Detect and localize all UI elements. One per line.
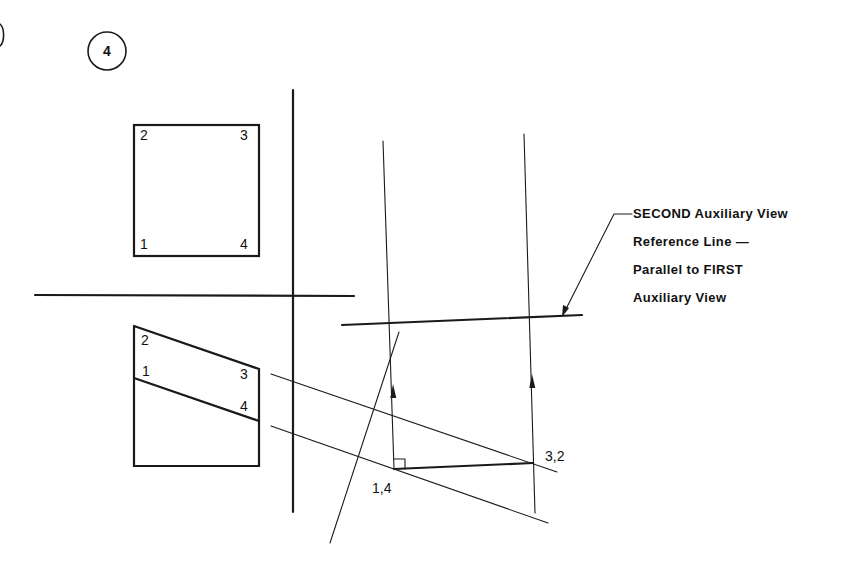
projection-line-upper xyxy=(271,374,557,472)
first-auxiliary-reference-line xyxy=(330,332,399,543)
annotation-line-4: Auxiliary View xyxy=(633,289,788,313)
annotation-line-1: SECOND Auxiliary View xyxy=(633,205,788,233)
top-view-label-4: 4 xyxy=(240,237,248,251)
auxiliary-edge-line xyxy=(394,463,533,469)
arrowhead-right-icon xyxy=(529,374,535,388)
front-view-label-3: 3 xyxy=(240,367,248,381)
annotation-note: SECOND Auxiliary View Reference Line — P… xyxy=(633,205,788,313)
auxiliary-label-3-2: 3,2 xyxy=(545,449,564,463)
top-view-label-3: 3 xyxy=(240,128,248,142)
top-view-label-2: 2 xyxy=(140,128,148,142)
step-number: 4 xyxy=(88,44,126,58)
horizontal-fold-line xyxy=(35,295,354,296)
front-view-label-1: 1 xyxy=(142,364,150,378)
annotation-line-3: Parallel to FIRST xyxy=(633,261,788,289)
auxiliary-label-1-4: 1,4 xyxy=(372,481,391,495)
top-view-label-1: 1 xyxy=(140,237,148,251)
front-view-label-4: 4 xyxy=(240,399,248,413)
projection-line-left xyxy=(383,141,394,469)
front-view-label-2: 2 xyxy=(141,333,149,347)
previous-step-circle-fragment xyxy=(0,24,4,46)
projection-line-lower xyxy=(271,426,548,523)
second-auxiliary-reference-line xyxy=(342,315,582,325)
annotation-leader-line xyxy=(565,214,632,311)
front-view-outline xyxy=(134,326,259,466)
annotation-line-2: Reference Line — xyxy=(633,233,788,261)
projection-line-right xyxy=(524,134,535,513)
